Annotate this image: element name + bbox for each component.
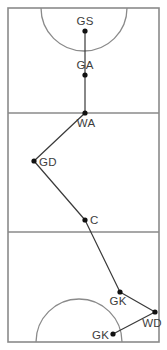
position-label-wa: WA	[77, 117, 96, 129]
position-node-gk2-dot[interactable]	[110, 331, 115, 336]
position-node-gk1-dot[interactable]	[117, 289, 122, 294]
position-label-gs: GS	[76, 15, 93, 27]
position-node-gd-dot[interactable]	[31, 158, 36, 163]
position-label-gk1: GK	[109, 295, 126, 307]
position-label-wd: WD	[142, 317, 162, 329]
position-label-c: C	[90, 214, 99, 226]
position-node-ga-dot[interactable]	[82, 72, 87, 77]
position-label-ga: GA	[76, 59, 93, 71]
position-node-wd-dot[interactable]	[152, 309, 157, 314]
position-label-gd: GD	[39, 156, 57, 168]
position-node-gs-dot[interactable]	[82, 28, 87, 33]
position-label-gk2: GK	[92, 329, 109, 341]
court-diagram-canvas: GS GA WA GD C GK WD GK	[0, 0, 167, 350]
position-node-wa-dot[interactable]	[82, 110, 87, 115]
player-movement-path	[34, 31, 155, 334]
position-node-c-dot[interactable]	[82, 217, 87, 222]
netball-court-diagram: GS GA WA GD C GK WD GK	[0, 0, 167, 350]
